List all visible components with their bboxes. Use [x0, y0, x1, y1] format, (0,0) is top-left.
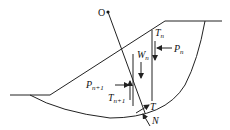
label-tn: Tn	[155, 27, 165, 40]
label-n: N	[151, 115, 160, 126]
diagram-canvas: O Tn Wn Pn Pn+1 Tn+1 T N	[0, 0, 230, 130]
normal-force-arrow	[143, 114, 150, 126]
label-pn1: Pn+1	[85, 79, 104, 92]
label-tn1: Tn+1	[108, 92, 125, 105]
slope-stability-diagram: O Tn Wn Pn Pn+1 Tn+1 T N	[0, 0, 230, 130]
ground-profile	[10, 21, 222, 95]
center-label: O	[98, 7, 105, 18]
label-wn: Wn	[137, 49, 149, 62]
label-pn: Pn	[173, 43, 184, 56]
